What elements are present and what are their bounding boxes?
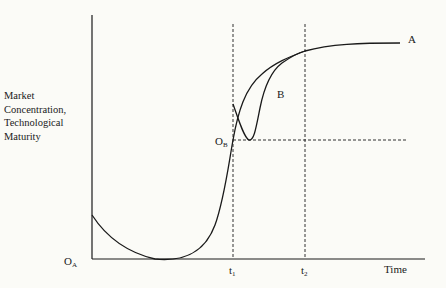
x-axis-label: Time [384,262,407,276]
curve-b [233,51,305,140]
origin-b-label: OB [215,134,228,152]
t1-sub: 1 [232,270,236,278]
y-axis-label-line: Technological [4,116,88,130]
origin-a-sub: A [72,261,77,269]
origin-a-main: O [64,255,72,267]
y-axis-label-line: Maturity [4,130,88,144]
t1-label: t1 [229,263,236,281]
y-axis-label: Market Concentration, Technological Matu… [4,89,88,143]
curve-a [92,43,400,260]
y-axis-label-line: Concentration, [4,103,88,117]
origin-a-label: OA [64,254,77,272]
curve-b-label: B [277,87,284,101]
origin-b-sub: B [223,141,228,149]
origin-b-main: O [215,135,223,147]
curve-a-label: A [408,32,416,46]
t2-sub: 2 [304,270,308,278]
t2-label: t2 [301,263,308,281]
y-axis-label-line: Market [4,89,88,103]
